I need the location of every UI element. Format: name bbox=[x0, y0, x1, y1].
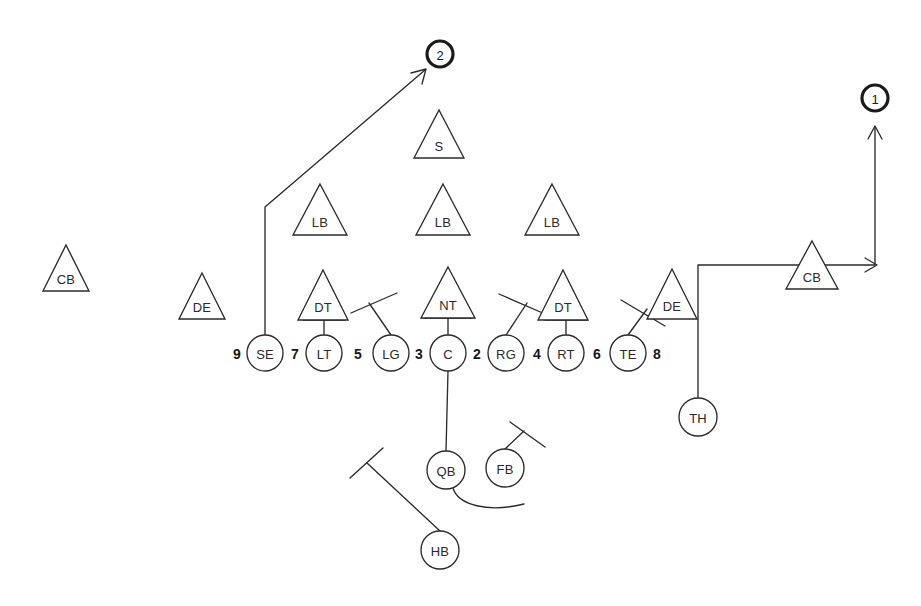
gap-number-4: 4 bbox=[533, 346, 541, 362]
defender-label: DE bbox=[663, 299, 682, 314]
route-th-path bbox=[698, 127, 875, 398]
defender-label: S bbox=[435, 139, 444, 154]
route-marker-layer: 2 1 bbox=[427, 41, 888, 111]
offense-label: TH bbox=[689, 411, 707, 426]
offense-player-se[interactable]: SE bbox=[247, 335, 283, 371]
offense-label: SE bbox=[256, 347, 274, 362]
offense-player-qb[interactable]: QB bbox=[427, 451, 465, 489]
offense-player-te[interactable]: TE bbox=[610, 335, 646, 371]
defender-de-left[interactable]: DE bbox=[179, 273, 225, 319]
defender-label: NT bbox=[439, 298, 457, 313]
offense-label: C bbox=[443, 347, 453, 362]
marker-label: 2 bbox=[436, 48, 443, 63]
offense-label: RT bbox=[557, 347, 575, 362]
defender-lb-mid[interactable]: LB bbox=[416, 184, 470, 235]
defender-lb-left[interactable]: LB bbox=[293, 184, 347, 235]
offense-player-hb[interactable]: HB bbox=[421, 531, 459, 569]
offense-player-fb[interactable]: FB bbox=[486, 449, 524, 487]
offense-label: TE bbox=[619, 347, 636, 362]
defender-label: LB bbox=[544, 215, 560, 230]
football-play-diagram: CB DE DT NT DT DE bbox=[0, 0, 921, 606]
route-qb-sweep bbox=[453, 488, 524, 508]
assignment-fb-block-bar bbox=[510, 422, 545, 447]
defender-label: LB bbox=[312, 215, 328, 230]
route-marker-1[interactable]: 1 bbox=[862, 85, 888, 111]
gap-number-9: 9 bbox=[233, 346, 241, 362]
assignment-c-to-qb bbox=[446, 371, 448, 451]
offense-label: LG bbox=[382, 347, 400, 362]
defender-label: LB bbox=[435, 215, 451, 230]
defender-safety[interactable]: S bbox=[414, 110, 464, 158]
offense-player-c[interactable]: C bbox=[430, 335, 466, 371]
assignment-fb-block-stem bbox=[505, 431, 524, 449]
defender-dt-left[interactable]: DT bbox=[298, 270, 348, 320]
offense-layer: SE LT LG C RG RT bbox=[247, 335, 717, 569]
defender-de-right[interactable]: DE bbox=[647, 269, 697, 319]
route-marker-2[interactable]: 2 bbox=[427, 41, 453, 67]
offense-label: QB bbox=[436, 464, 455, 479]
gap-number-2: 2 bbox=[473, 346, 481, 362]
defender-label: CB bbox=[57, 272, 75, 287]
defender-dt-right[interactable]: DT bbox=[538, 270, 588, 320]
assignment-lg-block-stem bbox=[369, 303, 391, 335]
offense-player-rg[interactable]: RG bbox=[488, 335, 524, 371]
offense-player-lt[interactable]: LT bbox=[306, 335, 342, 371]
defender-cb-left[interactable]: CB bbox=[43, 245, 89, 291]
offense-label: FB bbox=[496, 462, 513, 477]
gap-number-5: 5 bbox=[354, 346, 362, 362]
assignment-rg-block-stem bbox=[506, 303, 527, 335]
defender-label: DT bbox=[554, 300, 572, 315]
play-diagram-canvas: CB DE DT NT DT DE bbox=[0, 0, 921, 606]
offense-label: HB bbox=[431, 544, 449, 559]
defender-lb-right[interactable]: LB bbox=[525, 184, 579, 235]
offense-label: LT bbox=[317, 347, 332, 362]
defense-layer: CB DE DT NT DT DE bbox=[43, 110, 838, 320]
assignment-layer bbox=[303, 293, 665, 531]
defender-label: CB bbox=[803, 270, 821, 285]
defender-label: DE bbox=[193, 300, 212, 315]
gap-number-6: 6 bbox=[593, 346, 601, 362]
offense-player-th[interactable]: TH bbox=[679, 398, 717, 436]
gap-number-7: 7 bbox=[291, 346, 299, 362]
gap-number-3: 3 bbox=[415, 346, 423, 362]
marker-label: 1 bbox=[871, 92, 878, 107]
offense-label: RG bbox=[496, 347, 516, 362]
offense-player-rt[interactable]: RT bbox=[548, 335, 584, 371]
route-se-path bbox=[265, 70, 425, 335]
defender-label: DT bbox=[314, 300, 332, 315]
gap-number-8: 8 bbox=[653, 346, 661, 362]
defender-nt[interactable]: NT bbox=[421, 267, 475, 318]
offense-player-lg[interactable]: LG bbox=[373, 335, 409, 371]
